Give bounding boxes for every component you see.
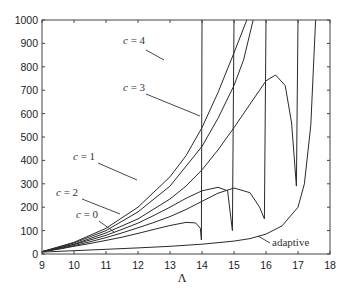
leader-line-c4 (146, 50, 164, 60)
leader-line-adaptive (258, 236, 270, 243)
x-tick-label: 10 (68, 259, 80, 271)
x-tick-label: 18 (324, 259, 336, 271)
label-c4: c = 4 (123, 34, 146, 46)
y-tick-label: 900 (20, 37, 38, 49)
label-c1: c = 1 (73, 150, 95, 162)
x-tick-label: 12 (132, 259, 144, 271)
curve-c-4 (42, 20, 247, 252)
leader-line-c1 (98, 163, 137, 180)
y-tick-label: 1000 (15, 14, 39, 26)
x-tick-label: 17 (292, 259, 304, 271)
curve-c-1 (42, 20, 234, 252)
y-tick-label: 200 (20, 201, 38, 213)
y-tick-label: 800 (20, 61, 38, 73)
y-axis: 01002003004005006007008009001000 (15, 14, 330, 260)
curve-unlabeled-steep-curve (42, 20, 253, 252)
label-c2: c = 2 (56, 186, 78, 198)
x-tick-label: 9 (39, 259, 45, 271)
y-tick-label: 0 (32, 248, 38, 260)
x-tick-label: 13 (164, 259, 176, 271)
line-chart: 9101112131415161718 01002003004005006007… (0, 0, 351, 300)
label-c3: c = 3 (123, 81, 146, 93)
y-tick-label: 500 (20, 131, 38, 143)
leader-line-c3 (146, 94, 200, 116)
x-axis: 9101112131415161718 (39, 20, 336, 271)
x-axis-title: Λ (178, 271, 187, 285)
y-tick-label: 600 (20, 108, 38, 120)
x-tick-label: 14 (196, 259, 208, 271)
y-tick-label: 400 (20, 154, 38, 166)
y-tick-label: 700 (20, 84, 38, 96)
x-tick-label: 16 (260, 259, 272, 271)
x-tick-label: 11 (101, 259, 112, 271)
label-adaptive: adaptive (272, 236, 309, 248)
y-tick-label: 300 (20, 178, 38, 190)
label-c0: c = 0 (76, 208, 99, 220)
curve-c-0 (42, 20, 202, 252)
y-tick-label: 100 (20, 225, 38, 237)
x-tick-label: 15 (228, 259, 240, 271)
